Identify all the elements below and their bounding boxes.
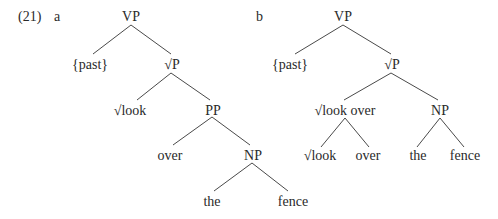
tree-b-the: the — [409, 148, 426, 163]
tree-a-past: {past} — [72, 57, 108, 72]
tree-a-vp: VP — [122, 9, 140, 24]
example-number: (21) — [18, 9, 42, 25]
tree-a-np: NP — [244, 148, 262, 163]
tree-a-the: the — [203, 194, 220, 209]
tree-b-fence: fence — [450, 148, 480, 163]
tree-a-pp: PP — [205, 103, 221, 118]
tree-a-over: over — [158, 148, 183, 163]
syntax-tree-figure: (21) a b VP {past} √P √look PP over NP t… — [0, 0, 498, 219]
tree-a-root-phrase: √P — [164, 57, 180, 72]
tree-b-over: over — [356, 148, 381, 163]
tree-a-fence: fence — [278, 194, 308, 209]
tree-a-look: √look — [114, 103, 147, 118]
tree-b-look-over: √look over — [315, 103, 376, 118]
tree-b-np: NP — [431, 103, 449, 118]
tree-b-look: √look — [304, 148, 337, 163]
tree-b-edges — [295, 25, 464, 147]
subexample-a-label: a — [54, 9, 61, 24]
subexample-b-label: b — [256, 9, 263, 24]
tree-b: VP {past} √P √look over NP √look over th… — [272, 9, 480, 163]
tree-b-vp: VP — [334, 9, 352, 24]
tree-b-past: {past} — [272, 57, 308, 72]
tree-b-root-phrase: √P — [384, 57, 400, 72]
